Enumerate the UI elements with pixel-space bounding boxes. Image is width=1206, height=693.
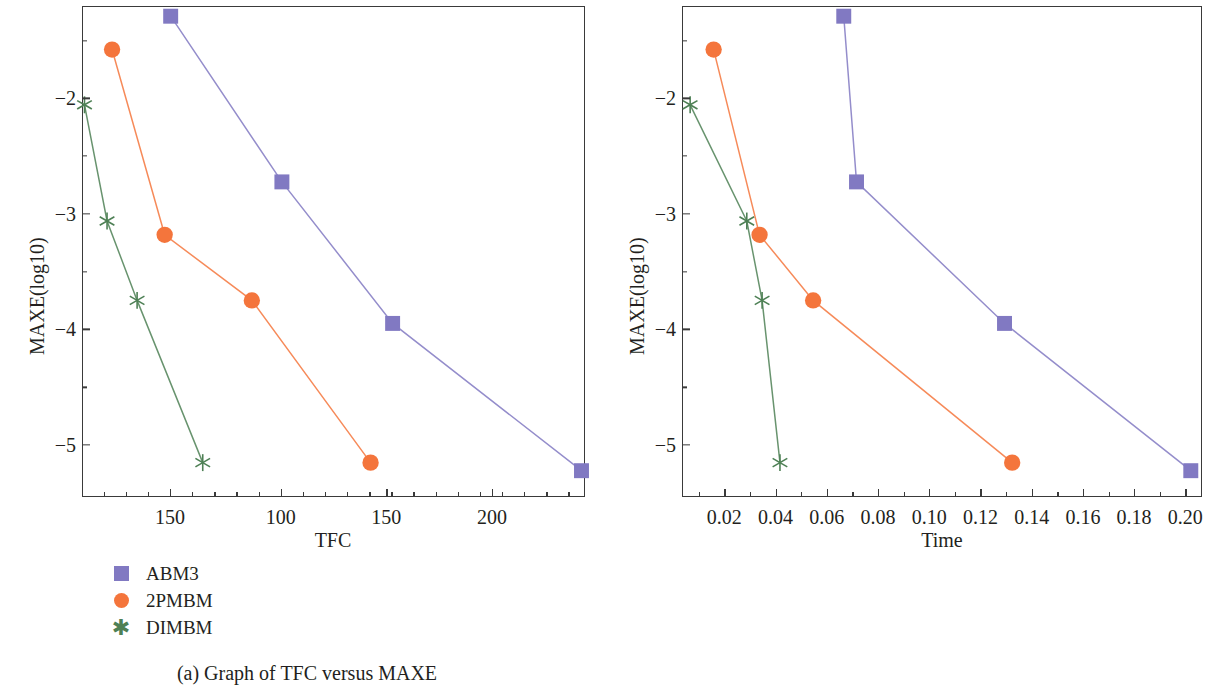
- data-point-circle: [705, 41, 721, 57]
- x-tick-label: 0.14: [1014, 507, 1049, 527]
- data-point-circle: [362, 454, 378, 470]
- data-point-star: [755, 292, 770, 309]
- x-tick-label: 0.12: [963, 507, 998, 527]
- plot-area-a: [82, 6, 585, 497]
- y-axis-minor-tick: [682, 387, 687, 388]
- data-point-star: [195, 454, 210, 471]
- x-axis-minor-tick: [236, 492, 237, 497]
- x-axis-major-tick: [1134, 489, 1135, 497]
- x-axis-minor-tick: [750, 492, 751, 497]
- data-point-square: [1183, 463, 1198, 478]
- y-axis-minor-tick: [82, 156, 87, 157]
- x-axis-title-b: Time: [921, 529, 963, 552]
- x-axis-minor-tick: [325, 492, 326, 497]
- x-axis-minor-tick: [546, 492, 547, 497]
- x-axis-major-tick: [1185, 489, 1186, 497]
- y-axis-title-a: MAXE(log10): [26, 237, 49, 355]
- data-point-square: [849, 174, 864, 189]
- x-axis-minor-tick: [480, 492, 481, 497]
- series-line-dimbm: [690, 105, 780, 463]
- y-axis-major-tick: [682, 213, 690, 214]
- y-axis-major-tick: [82, 444, 90, 445]
- x-axis-minor-tick: [192, 492, 193, 497]
- x-axis-major-tick: [386, 489, 387, 497]
- x-axis-major-tick: [281, 489, 282, 497]
- y-axis-major-tick: [682, 329, 690, 330]
- y-tick-label: −5: [636, 435, 676, 455]
- data-point-circle: [156, 227, 172, 243]
- y-tick-label: −3: [636, 204, 676, 224]
- x-tick-label: 0.06: [809, 507, 844, 527]
- plot-area-b: [682, 6, 1202, 497]
- legend-label: DIMBM: [146, 617, 213, 639]
- x-axis-minor-tick: [1057, 492, 1058, 497]
- x-axis-minor-tick: [904, 492, 905, 497]
- x-axis-minor-tick: [303, 492, 304, 497]
- data-point-square: [274, 174, 289, 189]
- x-axis-minor-tick: [391, 492, 392, 497]
- x-tick-label: 200: [477, 507, 507, 527]
- data-point-circle: [751, 227, 767, 243]
- data-point-square: [163, 9, 178, 24]
- x-axis-major-tick: [827, 489, 828, 497]
- y-axis-minor-tick: [682, 40, 687, 41]
- series-line-2pmbm: [714, 50, 1013, 463]
- x-axis-major-tick: [980, 489, 981, 497]
- plot-series-layer-b: [683, 7, 1201, 496]
- x-axis-minor-tick: [436, 492, 437, 497]
- y-axis-minor-tick: [82, 40, 87, 41]
- x-axis-minor-tick: [214, 492, 215, 497]
- x-tick-label: 0.04: [758, 507, 793, 527]
- x-axis-major-tick: [170, 489, 171, 497]
- y-axis-minor-tick: [82, 271, 87, 272]
- x-axis-title-a: TFC: [315, 529, 352, 552]
- x-axis-minor-tick: [1006, 492, 1007, 497]
- legend-item-2pmbm[interactable]: 2PMBM: [108, 587, 213, 614]
- y-tick-label: −3: [36, 204, 76, 224]
- y-axis-title-b: MAXE(log10): [626, 237, 649, 355]
- series-line-2pmbm: [112, 50, 371, 463]
- data-point-square: [997, 316, 1012, 331]
- y-axis-major-tick: [82, 329, 90, 330]
- legend-item-dimbm[interactable]: ✱ DIMBM: [108, 614, 213, 641]
- x-axis-minor-tick: [699, 492, 700, 497]
- x-axis-minor-tick: [801, 492, 802, 497]
- x-axis-major-tick: [1032, 489, 1033, 497]
- x-axis-minor-tick: [1109, 492, 1110, 497]
- data-point-square: [385, 316, 400, 331]
- x-axis-minor-tick: [524, 492, 525, 497]
- y-axis-minor-tick: [682, 271, 687, 272]
- plot-series-layer-a: [83, 7, 584, 496]
- x-axis-minor-tick: [458, 492, 459, 497]
- x-tick-label: 0.18: [1117, 507, 1152, 527]
- panel-a: 150100150200−2−3−4−5 TFC MAXE(log10) ABM…: [0, 0, 603, 693]
- x-axis-minor-tick: [955, 492, 956, 497]
- data-point-circle: [104, 41, 120, 57]
- x-axis-minor-tick: [369, 492, 370, 497]
- series-line-abm3: [171, 16, 582, 470]
- x-axis-minor-tick: [104, 492, 105, 497]
- legend-label: 2PMBM: [146, 590, 213, 612]
- legend-a: ABM3 2PMBM ✱ DIMBM: [108, 560, 213, 641]
- x-axis-minor-tick: [148, 492, 149, 497]
- data-point-star: [773, 454, 788, 471]
- data-point-square: [836, 9, 851, 24]
- x-tick-label: 150: [371, 507, 401, 527]
- panel-b: 0.020.040.060.080.100.120.140.160.180.20…: [603, 0, 1206, 693]
- x-axis-major-tick: [776, 489, 777, 497]
- series-line-abm3: [844, 16, 1191, 470]
- y-axis-major-tick: [82, 213, 90, 214]
- x-axis-minor-tick: [347, 492, 348, 497]
- y-axis-major-tick: [682, 98, 690, 99]
- x-axis-major-tick: [929, 489, 930, 497]
- x-tick-label: 0.20: [1168, 507, 1203, 527]
- data-point-star: [739, 213, 754, 230]
- legend-item-abm3[interactable]: ABM3: [108, 560, 213, 587]
- y-axis-major-tick: [82, 98, 90, 99]
- x-axis-minor-tick: [413, 492, 414, 497]
- x-tick-label: 0.08: [860, 507, 895, 527]
- y-tick-label: −2: [636, 88, 676, 108]
- x-axis-minor-tick: [259, 492, 260, 497]
- x-axis-minor-tick: [568, 492, 569, 497]
- x-axis-major-tick: [878, 489, 879, 497]
